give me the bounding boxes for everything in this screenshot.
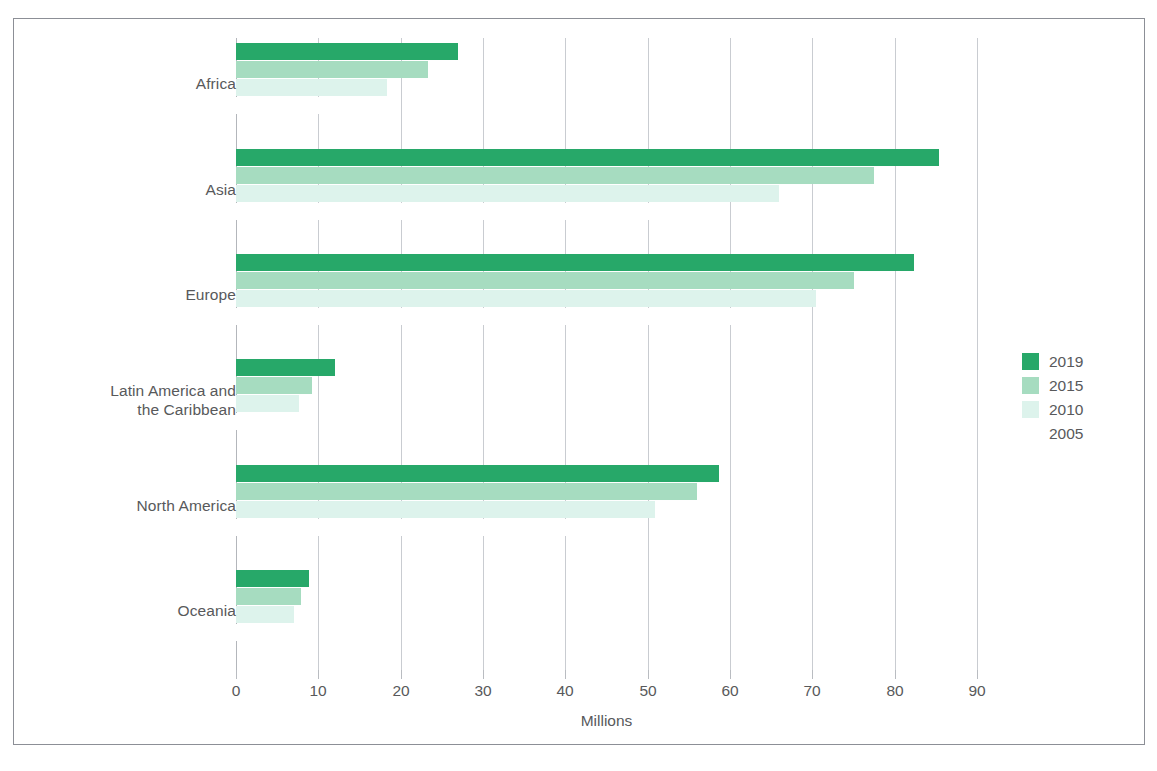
bar-latin-america-and-the-caribbean-2010 [236, 395, 299, 412]
bar-group [236, 43, 977, 114]
legend-swatch-2015 [1022, 377, 1039, 394]
bar-north-america-2005 [236, 519, 610, 536]
bar-group [236, 465, 977, 536]
bar-north-america-2015 [236, 483, 697, 500]
legend-item-2015[interactable]: 2015 [1022, 373, 1132, 397]
bar-latin-america-and-the-caribbean-2015 [236, 377, 312, 394]
xtick-mark-0 [236, 670, 237, 679]
legend-swatch-2019 [1022, 353, 1039, 370]
xtick-mark-20 [401, 670, 402, 679]
bar-latin-america-and-the-caribbean-2019 [236, 359, 335, 376]
bar-group [236, 254, 977, 325]
category-label-line: Europe [21, 285, 236, 304]
xtick-label-10: 10 [298, 682, 338, 700]
category-label-line: Africa [21, 74, 236, 93]
legend-label-2010: 2010 [1049, 401, 1083, 418]
xtick-label-80: 80 [875, 682, 915, 700]
bar-oceania-2010 [236, 606, 294, 623]
xtick-label-0: 0 [216, 682, 256, 700]
bar-group [236, 149, 977, 220]
bar-asia-2019 [236, 149, 939, 166]
xtick-mark-50 [648, 670, 649, 679]
bar-europe-2019 [236, 254, 914, 271]
legend-item-2010[interactable]: 2010 [1022, 397, 1132, 421]
bar-north-america-2010 [236, 501, 655, 518]
category-label-asia: Asia [21, 180, 236, 199]
x-axis: 0102030405060708090 [236, 670, 977, 710]
xtick-mark-40 [565, 670, 566, 679]
category-label-line: Asia [21, 180, 236, 199]
legend-label-2019: 2019 [1049, 353, 1083, 370]
bar-north-america-2019 [236, 465, 719, 482]
plot-area [236, 38, 977, 670]
category-label-latin-america-and-the-caribbean: Latin America andthe Caribbean [21, 381, 236, 419]
bar-asia-2010 [236, 185, 779, 202]
category-label-europe: Europe [21, 285, 236, 304]
category-label-north-america: North America [21, 496, 236, 515]
bar-oceania-2005 [236, 624, 286, 641]
bar-africa-2005 [236, 97, 364, 114]
xtick-label-70: 70 [792, 682, 832, 700]
legend-swatch-2005 [1022, 425, 1039, 442]
category-label-line: Latin America and [21, 381, 236, 400]
category-label-line: the Caribbean [21, 400, 236, 419]
xtick-label-60: 60 [710, 682, 750, 700]
gridline-90 [977, 38, 978, 670]
category-label-line: Oceania [21, 601, 236, 620]
bar-asia-2015 [236, 167, 874, 184]
bar-group [236, 359, 977, 430]
legend-swatch-2010 [1022, 401, 1039, 418]
bar-europe-2010 [236, 290, 816, 307]
category-label-oceania: Oceania [21, 601, 236, 620]
bar-africa-2019 [236, 43, 458, 60]
legend-label-2005: 2005 [1049, 425, 1083, 442]
xtick-label-40: 40 [545, 682, 585, 700]
xtick-mark-60 [730, 670, 731, 679]
xtick-mark-80 [895, 670, 896, 679]
bar-europe-2005 [236, 308, 764, 325]
bar-asia-2005 [236, 203, 705, 220]
xtick-mark-70 [812, 670, 813, 679]
bar-africa-2015 [236, 61, 428, 78]
bar-latin-america-and-the-caribbean-2005 [236, 413, 293, 430]
legend: 2019201520102005 [1022, 349, 1132, 445]
xtick-mark-10 [318, 670, 319, 679]
xtick-label-90: 90 [957, 682, 997, 700]
x-axis-title: Millions [236, 712, 977, 730]
bar-africa-2010 [236, 79, 387, 96]
category-label-africa: Africa [21, 74, 236, 93]
xtick-mark-30 [483, 670, 484, 679]
xtick-label-30: 30 [463, 682, 503, 700]
legend-label-2015: 2015 [1049, 377, 1083, 394]
xtick-mark-90 [977, 670, 978, 679]
legend-item-2005[interactable]: 2005 [1022, 421, 1132, 445]
category-label-line: North America [21, 496, 236, 515]
legend-item-2019[interactable]: 2019 [1022, 349, 1132, 373]
xtick-label-50: 50 [628, 682, 668, 700]
chart-page: AfricaAsiaEuropeLatin America andthe Car… [0, 0, 1157, 771]
bar-oceania-2019 [236, 570, 309, 587]
bar-europe-2015 [236, 272, 854, 289]
category-axis-labels: AfricaAsiaEuropeLatin America andthe Car… [10, 38, 236, 670]
bar-group [236, 570, 977, 641]
bar-oceania-2015 [236, 588, 301, 605]
xtick-label-20: 20 [381, 682, 421, 700]
figure-frame: AfricaAsiaEuropeLatin America andthe Car… [13, 18, 1145, 745]
